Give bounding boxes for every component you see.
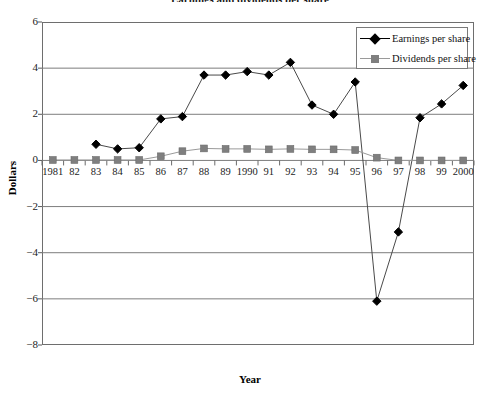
- data-point-marker: [114, 157, 121, 164]
- data-point-marker: [201, 145, 208, 152]
- x-tick-label: 88: [199, 166, 210, 177]
- plot-canvas: [42, 22, 474, 345]
- gridlines: [38, 22, 474, 345]
- diamond-marker-icon: [369, 33, 380, 44]
- chart-title: Earnings and dividends per share: [0, 0, 500, 2]
- x-tick-label: 93: [307, 166, 318, 177]
- data-point-marker: [329, 110, 337, 118]
- data-point-marker: [244, 145, 251, 152]
- x-axis-title: Year: [0, 373, 500, 385]
- x-axis-ticks: [42, 160, 474, 165]
- legend-swatch-dividends: [360, 53, 390, 65]
- x-tick-label: 98: [415, 166, 426, 177]
- x-tick-label: 92: [285, 166, 296, 177]
- data-point-marker: [113, 145, 121, 153]
- x-tick-label: 1981: [42, 166, 63, 177]
- series-lines: [53, 62, 463, 301]
- data-point-marker: [157, 153, 164, 160]
- data-point-marker: [394, 228, 402, 236]
- x-tick-label: 94: [328, 166, 339, 177]
- data-point-marker: [49, 157, 56, 164]
- y-tick-label: −4: [4, 247, 38, 258]
- data-point-marker: [309, 146, 316, 153]
- y-tick-label: −6: [4, 293, 38, 304]
- data-point-marker: [221, 71, 229, 79]
- x-tick-label: 82: [69, 166, 80, 177]
- x-tick-label: 85: [134, 166, 145, 177]
- legend-label-earnings: Earnings per share: [390, 33, 470, 44]
- data-point-marker: [157, 115, 165, 123]
- data-point-marker: [352, 147, 359, 154]
- chart-figure: Earnings and dividends per share 6420−2−…: [0, 0, 500, 395]
- series-markers: [49, 58, 467, 305]
- data-point-marker: [351, 78, 359, 86]
- x-tick-label: 1990: [237, 166, 258, 177]
- data-point-marker: [200, 71, 208, 79]
- data-point-marker: [92, 140, 100, 148]
- square-marker-icon: [371, 55, 379, 63]
- y-tick-label: −8: [4, 339, 38, 350]
- data-point-marker: [330, 146, 337, 153]
- data-point-marker: [417, 157, 424, 164]
- x-tick-label: 97: [393, 166, 404, 177]
- data-point-marker: [222, 145, 229, 152]
- data-point-marker: [136, 157, 143, 164]
- data-point-marker: [395, 157, 402, 164]
- legend-item-dividends: Dividends per share: [357, 48, 469, 69]
- data-point-marker: [308, 101, 316, 109]
- y-tick-label: 4: [4, 62, 38, 73]
- data-point-marker: [93, 157, 100, 164]
- y-axis-title: Dollars: [6, 148, 18, 208]
- data-point-marker: [179, 148, 186, 155]
- x-tick-label: 87: [177, 166, 188, 177]
- data-point-marker: [178, 112, 186, 120]
- data-point-marker: [135, 144, 143, 152]
- legend-label-dividends: Dividends per share: [390, 53, 476, 64]
- x-tick-label: 89: [220, 166, 231, 177]
- chart-legend: Earnings per share Dividends per share: [356, 27, 468, 69]
- x-tick-label: 84: [112, 166, 123, 177]
- x-tick-label: 95: [350, 166, 361, 177]
- data-point-marker: [373, 154, 380, 161]
- data-point-marker: [71, 157, 78, 164]
- data-point-marker: [265, 146, 272, 153]
- data-point-marker: [286, 58, 294, 66]
- series-line: [96, 62, 463, 301]
- data-point-marker: [373, 297, 381, 305]
- y-tick-label: 2: [4, 108, 38, 119]
- x-tick-label: 99: [436, 166, 447, 177]
- data-point-marker: [265, 71, 273, 79]
- x-tick-label: 96: [372, 166, 383, 177]
- x-tick-label: 91: [264, 166, 275, 177]
- data-point-marker: [460, 157, 467, 164]
- legend-swatch-earnings: [360, 33, 390, 45]
- x-tick-label: 2000: [453, 166, 474, 177]
- legend-item-earnings: Earnings per share: [357, 28, 469, 49]
- data-point-marker: [243, 67, 251, 75]
- x-tick-label: 86: [156, 166, 167, 177]
- x-tick-label: 83: [91, 166, 102, 177]
- data-point-marker: [438, 157, 445, 164]
- y-tick-label: 6: [4, 16, 38, 27]
- data-point-marker: [287, 145, 294, 152]
- data-point-marker: [416, 114, 424, 122]
